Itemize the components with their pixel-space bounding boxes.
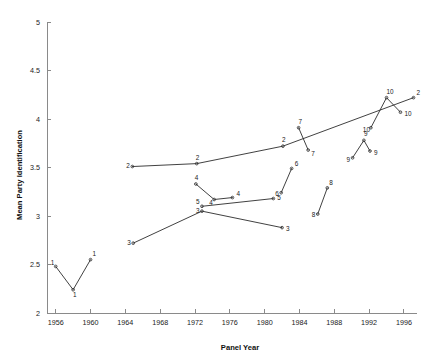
series-group (54, 96, 415, 291)
series-line-3 (133, 211, 282, 243)
x-tick-label: 1984 (291, 318, 307, 327)
x-tick-label: 1992 (361, 318, 377, 327)
point-label-2: 2 (417, 89, 421, 96)
point-label-9: 9 (374, 149, 378, 156)
x-tick-label: 1976 (222, 318, 238, 327)
point-label-1: 1 (51, 259, 55, 266)
chart-plot: 1956196019641968197219761980198419881992… (0, 0, 434, 359)
point-label-4: 4 (209, 199, 213, 206)
series-line-7 (299, 128, 309, 150)
point-label-10: 10 (404, 110, 412, 117)
y-tick-label: 2 (36, 309, 40, 318)
point-label-1: 1 (73, 291, 77, 298)
point-label-6: 6 (295, 160, 299, 167)
x-tick-label: 1960 (83, 318, 99, 327)
point-label-7: 7 (311, 150, 315, 157)
point-label-7: 7 (299, 118, 303, 125)
point-label-3: 3 (196, 207, 200, 214)
x-tick-label: 1972 (187, 318, 203, 327)
point-label-2: 2 (196, 154, 200, 161)
point-label-10: 10 (387, 88, 395, 95)
point-label-8: 8 (329, 179, 333, 186)
y-tick-label: 2.5 (30, 260, 40, 269)
y-tick-label: 5 (36, 18, 40, 27)
y-tick-label: 3 (36, 212, 40, 221)
y-tick-label: 3.5 (30, 163, 40, 172)
point-label-group: 111222233344455667788999101010 (51, 88, 421, 298)
x-axis-title: Panel Year (221, 343, 259, 352)
x-tick-label: 1964 (117, 318, 133, 327)
point-label-5: 5 (196, 198, 200, 205)
x-tick-group: 1956196019641968197219761980198419881992… (48, 309, 412, 327)
chart-container: 1956196019641968197219761980198419881992… (0, 0, 434, 359)
point-label-3: 3 (286, 225, 290, 232)
y-tick-group: 22.533.544.55 (30, 18, 51, 318)
series-line-10 (371, 98, 401, 128)
series-line-1 (56, 260, 91, 290)
point-label-9: 9 (347, 156, 351, 163)
x-tick-label: 1988 (326, 318, 342, 327)
x-tick-label: 1980 (257, 318, 273, 327)
point-label-10: 10 (363, 126, 371, 133)
series-line-8 (318, 188, 328, 214)
axes-group (47, 22, 417, 313)
y-tick-label: 4 (36, 115, 40, 124)
x-tick-label: 1996 (396, 318, 412, 327)
x-tick-label: 1968 (152, 318, 168, 327)
point-label-2: 2 (282, 136, 286, 143)
point-label-6: 6 (275, 190, 279, 197)
point-label-1: 1 (93, 250, 97, 257)
point-label-4: 4 (195, 174, 199, 181)
y-axis-title: Mean Party Identification (15, 130, 24, 220)
point-label-3: 3 (127, 239, 131, 246)
series-line-2 (132, 98, 413, 167)
series-line-9 (353, 140, 370, 157)
y-tick-label: 4.5 (30, 66, 40, 75)
point-label-2: 2 (126, 162, 130, 169)
x-tick-label: 1956 (48, 318, 64, 327)
point-label-4: 4 (236, 190, 240, 197)
series-line-6 (281, 168, 291, 192)
point-label-8: 8 (312, 211, 316, 218)
series-line-4 (196, 184, 233, 200)
